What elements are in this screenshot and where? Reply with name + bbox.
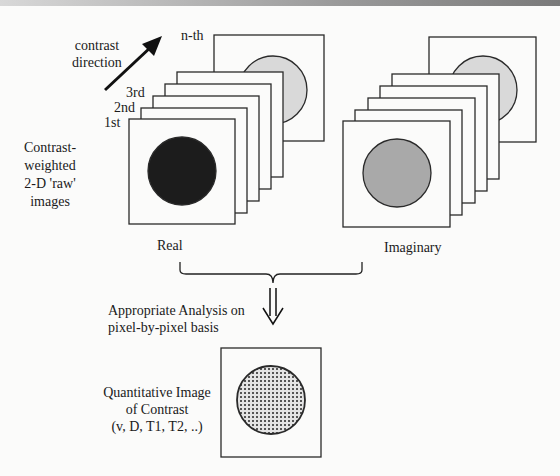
quantitative-image-label: Quantitative Image of Contrast (v, D, T1…	[92, 384, 222, 435]
contrast-direction-label: contrast direction	[52, 37, 142, 71]
stack-label-nth: n-th	[181, 27, 204, 44]
real-image-stack	[129, 35, 324, 224]
raw-images-label: Contrast- weighted 2-D 'raw' images	[10, 139, 90, 211]
quantitative-image-frame	[221, 348, 321, 457]
real-label: Real	[157, 237, 183, 254]
double-down-arrow-icon	[263, 288, 283, 324]
analysis-label: Appropriate Analysis on pixel-by-pixel b…	[108, 302, 245, 336]
diagram-graphics	[0, 0, 560, 476]
imaginary-image-stack	[343, 37, 536, 227]
combine-brace	[180, 262, 362, 283]
imaginary-label: Imaginary	[384, 239, 442, 256]
stack-label-1st: 1st	[104, 114, 120, 131]
